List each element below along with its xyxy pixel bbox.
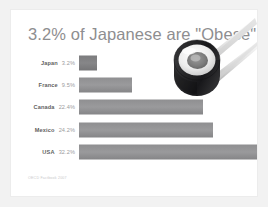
category-label: Japan xyxy=(41,60,58,66)
bar-track xyxy=(79,96,257,118)
category-label: USA xyxy=(42,149,54,155)
bar-track xyxy=(79,141,257,163)
bar xyxy=(79,144,257,159)
row-label-group: Japan 3.2% xyxy=(11,60,79,66)
bar-track xyxy=(79,52,257,74)
value-label: 3.2% xyxy=(62,60,75,66)
value-label: 24.2% xyxy=(59,127,75,133)
chart-row-france: France 9.5% xyxy=(11,74,257,96)
bar xyxy=(79,56,97,71)
chart-row-japan: Japan 3.2% xyxy=(11,52,257,74)
bar xyxy=(79,100,203,115)
row-label-group: USA 32.2% xyxy=(11,149,79,155)
category-label: France xyxy=(39,82,58,88)
slide-frame: 3.2% of Japanese are "Obese" xyxy=(0,0,268,207)
value-label: 22.4% xyxy=(59,104,75,110)
page-title: 3.2% of Japanese are "Obese" xyxy=(28,25,256,44)
value-label: 9.5% xyxy=(62,82,75,88)
category-label: Canada xyxy=(34,104,55,110)
slide-card: 3.2% of Japanese are "Obese" xyxy=(11,10,257,196)
chart-row-usa: USA 32.2% xyxy=(11,141,257,163)
category-label: Mexico xyxy=(35,127,55,133)
source-note: OECD Factbook 2007 xyxy=(28,176,67,180)
bar-chart: Japan 3.2% France 9.5% Canada xyxy=(11,52,257,170)
bar-track xyxy=(79,74,257,96)
row-label-group: Canada 22.4% xyxy=(11,104,79,110)
value-label: 32.2% xyxy=(59,149,75,155)
bar-track xyxy=(79,119,257,141)
chart-row-canada: Canada 22.4% xyxy=(11,96,257,118)
chart-row-mexico: Mexico 24.2% xyxy=(11,119,257,141)
row-label-group: France 9.5% xyxy=(11,82,79,88)
bar xyxy=(79,122,213,137)
row-label-group: Mexico 24.2% xyxy=(11,127,79,133)
bar xyxy=(79,78,132,93)
